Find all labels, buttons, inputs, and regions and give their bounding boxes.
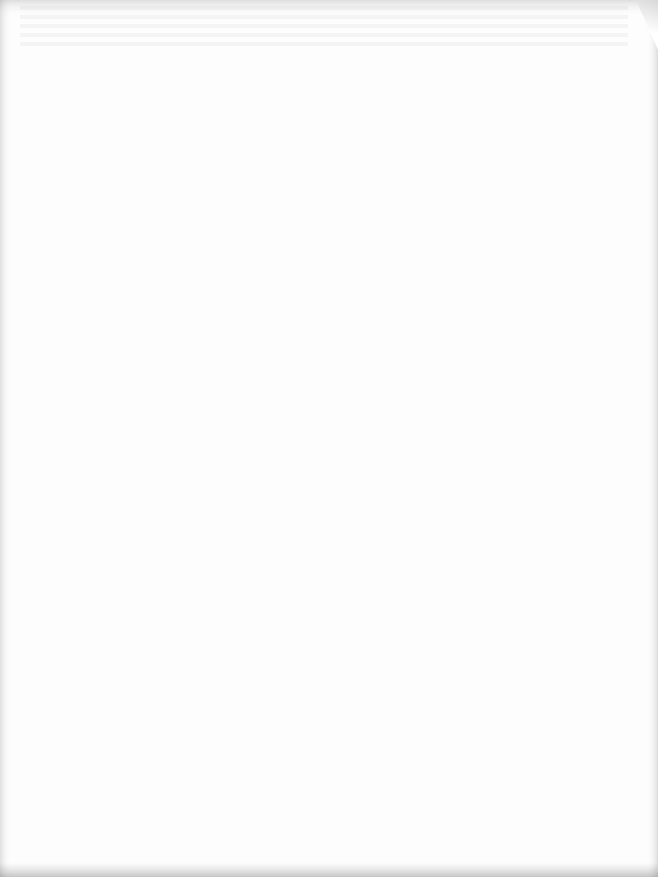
page-edge-shadow <box>0 863 658 877</box>
bleed-through-marks <box>20 6 628 46</box>
folded-corner <box>636 0 658 50</box>
blank-page <box>0 0 658 877</box>
